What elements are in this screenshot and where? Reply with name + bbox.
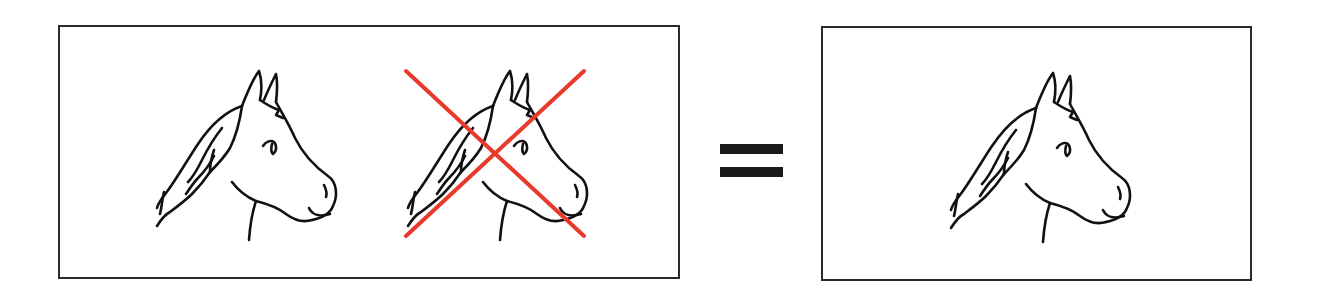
horse-head-drawing [152,68,342,243]
equals-icon: = [720,144,783,177]
cross-out-icon [403,68,587,239]
red-x-mark [403,68,587,239]
equals-bar-bottom [720,167,783,177]
horse-head-drawing [946,70,1136,245]
equals-bar-top [720,144,783,154]
horse-head-icon [946,70,1136,245]
horse-head-icon [152,68,342,243]
